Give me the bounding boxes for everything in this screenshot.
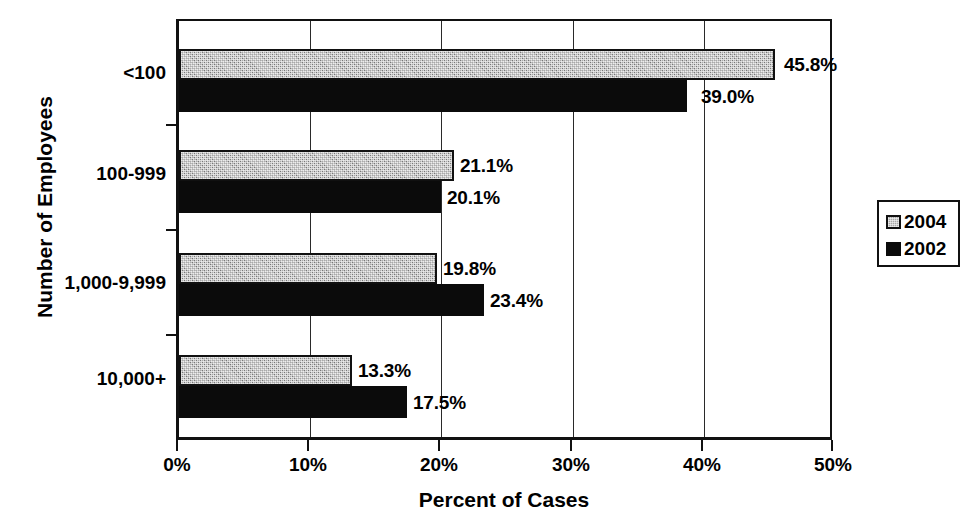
- legend-item-2002: 2002: [886, 235, 958, 262]
- bar-2002-1000-9999: [179, 284, 484, 316]
- legend-item-2004: 2004: [886, 208, 958, 235]
- x-axis-tick-50: [831, 440, 833, 451]
- x-axis-tick-20: [438, 440, 440, 451]
- legend-swatch-2004-icon: [886, 215, 901, 229]
- x-axis-tick-10: [307, 440, 309, 451]
- x-tick-label-20: 20%: [420, 454, 458, 476]
- legend-label-2002: 2002: [904, 239, 946, 258]
- value-label-2002-10000plus: 17.5%: [413, 392, 466, 414]
- x-axis-tick-0: [176, 440, 178, 451]
- x-tick-label-0: 0%: [163, 454, 190, 476]
- x-axis-tick-30: [570, 440, 572, 451]
- value-label-2004-1000-9999: 19.8%: [443, 258, 496, 280]
- value-label-2002-100-999: 20.1%: [447, 187, 500, 209]
- bar-2004-1000-9999: [179, 253, 437, 284]
- value-label-2004-lt100: 45.8%: [784, 54, 837, 76]
- y-tick-label-3: 10,000+: [40, 368, 166, 390]
- bar-2004-10000plus: [179, 355, 352, 386]
- chart-screenshot: Number of Employees <100 100-999 1,000-9…: [0, 0, 969, 524]
- y-tick-label-2: 1,000-9,999: [30, 272, 166, 294]
- legend-swatch-2002-icon: [886, 242, 901, 256]
- x-tick-label-10: 10%: [289, 454, 327, 476]
- x-tick-label-30: 30%: [552, 454, 590, 476]
- legend: 2004 2002: [877, 200, 960, 267]
- y-tick-label-1: 100-999: [40, 163, 166, 185]
- value-label-2002-lt100: 39.0%: [701, 86, 754, 108]
- value-label-2004-100-999: 21.1%: [460, 155, 513, 177]
- y-tick-label-0: <100: [40, 62, 166, 84]
- gridline-40: [704, 21, 705, 437]
- plot-area: [176, 19, 832, 440]
- bar-2002-100-999: [179, 181, 441, 213]
- bar-2004-lt100: [179, 49, 775, 80]
- x-tick-label-40: 40%: [683, 454, 721, 476]
- legend-label-2004: 2004: [904, 212, 946, 231]
- bar-2002-lt100: [179, 80, 687, 112]
- x-axis-tick-40: [701, 440, 703, 451]
- bar-2004-100-999: [179, 150, 454, 181]
- value-label-2004-10000plus: 13.3%: [358, 360, 411, 382]
- value-label-2002-1000-9999: 23.4%: [490, 290, 543, 312]
- x-tick-label-50: 50%: [814, 454, 852, 476]
- bar-2002-10000plus: [179, 386, 407, 418]
- y-axis-title: Number of Employees: [33, 57, 57, 357]
- x-axis-title: Percent of Cases: [176, 488, 832, 512]
